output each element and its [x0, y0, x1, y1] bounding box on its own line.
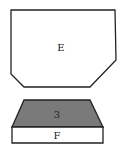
label-3: 3	[54, 109, 60, 120]
label-f: F	[54, 130, 61, 141]
label-e: E	[57, 42, 64, 53]
diagram-canvas: E 3 F	[0, 0, 123, 151]
